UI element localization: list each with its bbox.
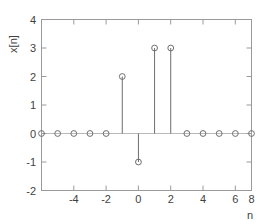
x-axis-title: n — [247, 209, 253, 221]
x-tick-label-8: 8 — [248, 193, 254, 205]
axes-frame — [42, 20, 252, 191]
x-tick-label-6: 6 — [232, 193, 238, 205]
y-tick-label-2: 2 — [30, 71, 36, 83]
y-tick-label-neg2: -2 — [26, 185, 36, 197]
x-tick-label-4: 4 — [200, 193, 206, 205]
y-tick-marks — [42, 20, 47, 191]
x-tick-label-neg2: -2 — [101, 193, 111, 205]
y-tick-label-neg1: -1 — [26, 156, 36, 168]
x-tick-marks-top — [74, 20, 236, 25]
x-tick-label-neg4: -4 — [69, 193, 79, 205]
y-axis-title: x[n] — [7, 35, 19, 53]
x-tick-marks — [74, 186, 252, 191]
y-tick-label-3: 3 — [30, 42, 36, 54]
y-tick-label-0: 0 — [30, 128, 36, 140]
x-tick-label-2: 2 — [168, 193, 174, 205]
y-tick-label-1: 1 — [30, 99, 36, 111]
stem-plot-figure: 4 3 2 1 0 -1 -2 -4 -2 0 2 4 6 — [0, 0, 268, 224]
y-tick-marks-right — [247, 20, 252, 191]
y-tick-label-4: 4 — [30, 14, 36, 26]
stem-series — [39, 45, 255, 165]
x-tick-label-0: 0 — [135, 193, 141, 205]
chart-canvas: 4 3 2 1 0 -1 -2 -4 -2 0 2 4 6 — [0, 0, 268, 224]
